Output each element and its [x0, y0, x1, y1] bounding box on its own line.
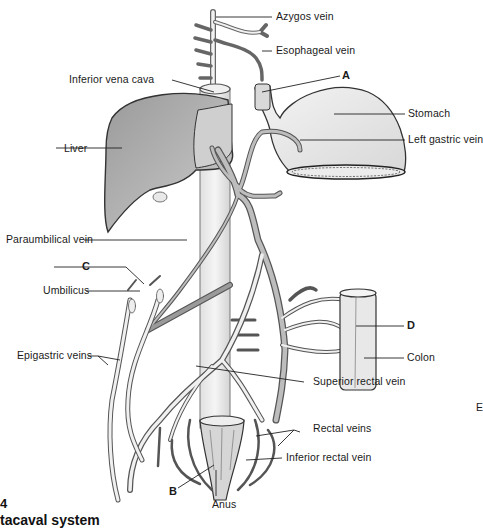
label-inferior-rectal-vein: Inferior rectal vein — [286, 451, 371, 463]
edge-letter: E — [476, 401, 483, 413]
epigastric-veins — [110, 276, 164, 500]
label-anus: Anus — [212, 498, 236, 510]
figure-title: tacaval system — [0, 512, 100, 528]
label-colon: Colon — [407, 351, 435, 363]
label-paraumbilical-vein: Paraumbilical vein — [6, 233, 93, 245]
label-esophageal-vein: Esophageal vein — [276, 44, 355, 56]
label-b: B — [169, 485, 177, 497]
label-superior-rectal-vein: Superior rectal vein — [313, 375, 405, 387]
label-inferior-vena-cava: Inferior vena cava — [69, 73, 154, 85]
label-c: C — [82, 260, 90, 272]
figure-number: 4 — [0, 496, 7, 511]
label-azygos-vein: Azygos vein — [276, 10, 334, 22]
label-liver: Liver — [64, 142, 87, 154]
label-stomach: Stomach — [408, 107, 450, 119]
rectum — [200, 416, 244, 500]
label-left-gastric-vein: Left gastric vein — [408, 133, 483, 145]
azygos-vein — [195, 12, 267, 95]
label-d: D — [407, 319, 415, 331]
label-rectal-veins: Rectal veins — [313, 422, 371, 434]
label-epigastric-veins: Epigastric veins — [17, 349, 92, 361]
label-a: A — [342, 69, 350, 81]
label-umbilicus: Umbilicus — [43, 284, 89, 296]
